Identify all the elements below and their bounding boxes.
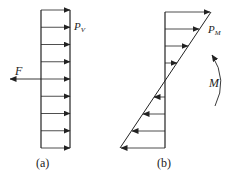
panel-a-uniform-load: F PV (a) [10,10,86,170]
panel-b-linear-load: PM M (b) [120,12,222,170]
load-pv-label: PV [73,20,86,34]
caption-a: (a) [36,156,49,170]
diagram-canvas: F PV (a) PM M (b) [0,0,232,182]
uniform-load-arrows [41,10,70,148]
moment-m-label: M [208,76,220,90]
load-pm-label: PM [207,23,222,37]
force-f-label: F [14,64,23,78]
caption-b: (b) [157,156,171,170]
